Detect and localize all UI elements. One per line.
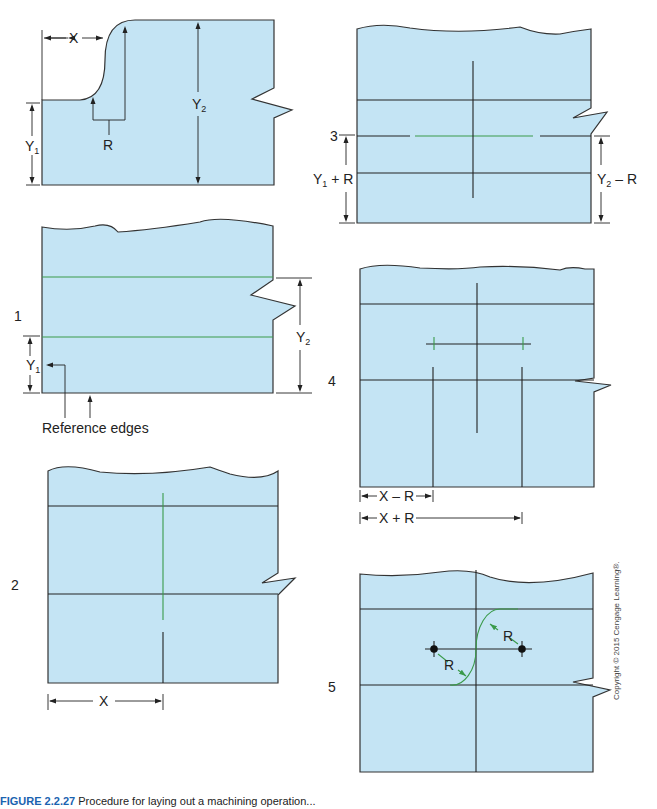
center-point-2 xyxy=(518,645,526,653)
step2-x-label: X xyxy=(99,693,109,709)
step-number-5: 5 xyxy=(328,679,336,695)
step-number-1: 1 xyxy=(14,308,22,324)
layout-procedure-diagram: X R Y1 Y2 1 Y1 xyxy=(0,0,657,809)
step-4-drawing: 4 X – R X + R xyxy=(328,265,611,526)
y2-minus-r-tail: – R xyxy=(611,171,637,187)
step-5-drawing: R R 5 xyxy=(328,570,610,772)
finished-part-drawing: X R Y1 Y2 xyxy=(25,20,292,185)
center-point-1 xyxy=(430,645,438,653)
svg-text:Y2: Y2 xyxy=(296,329,310,347)
radius-label: R xyxy=(103,137,113,153)
step-number-3: 3 xyxy=(330,128,338,144)
dimension-x-label: X xyxy=(69,30,79,46)
radius-label-2: R xyxy=(503,628,513,644)
step1-y2-subscript: 2 xyxy=(305,337,310,347)
x-minus-r-label: X – R xyxy=(379,488,414,504)
step-2-drawing: 2 X xyxy=(11,467,295,710)
step-number-4: 4 xyxy=(328,373,336,389)
x-plus-r-label: X + R xyxy=(379,510,414,526)
step-number-2: 2 xyxy=(11,577,19,593)
figure-caption-text: Procedure for laying out a machining ope… xyxy=(78,795,315,807)
radius-label-1: R xyxy=(444,657,454,673)
svg-text:Y1 + R: Y1 + R xyxy=(313,171,353,189)
reference-edges-label: Reference edges xyxy=(42,420,149,436)
y1-plus-r-tail: + R xyxy=(327,171,353,187)
step-3-drawing: 3 Y1 + R Y2 – R xyxy=(313,25,637,223)
figure-caption: FIGURE 2.2.27 Procedure for laying out a… xyxy=(0,795,316,807)
svg-text:Y1: Y1 xyxy=(26,357,40,375)
y2-subscript: 2 xyxy=(201,104,206,114)
y1-subscript: 1 xyxy=(34,146,39,156)
step1-y1-subscript: 1 xyxy=(35,365,40,375)
figure-caption-label: FIGURE 2.2.27 xyxy=(0,795,75,807)
svg-text:Y2 – R: Y2 – R xyxy=(597,171,637,189)
copyright-notice: Copyright © 2015 Cengage Learning®. xyxy=(612,561,621,700)
svg-text:Y1: Y1 xyxy=(25,138,39,156)
step-1-drawing: 1 Y1 Y2 Reference edges xyxy=(14,219,312,436)
